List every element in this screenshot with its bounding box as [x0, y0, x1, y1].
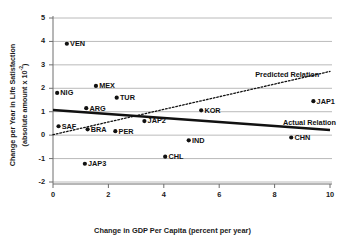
data-point-label-ven: VEN [70, 39, 85, 48]
y-tick-label-2: 2 [31, 83, 45, 92]
data-point-label-arg: ARG [89, 104, 105, 113]
data-point-label-kor: KOR [204, 106, 220, 115]
x-tick-marks-group [53, 184, 330, 188]
data-point-arg [84, 106, 88, 110]
data-point-ind [187, 138, 191, 142]
y-tick-label--2: -2 [31, 177, 45, 186]
data-point-chl [163, 155, 167, 159]
data-point-label-tur: TUR [120, 93, 135, 102]
data-point-per [113, 129, 117, 133]
data-point-mex [94, 84, 98, 88]
data-point-jap3 [83, 162, 87, 166]
x-tick-label-4: 4 [156, 190, 172, 199]
x-tick-label-10: 10 [322, 190, 338, 199]
x-tick-label-2: 2 [100, 190, 116, 199]
scatter-chart-figure: Change per Year in Life Satisfaction (ab… [0, 0, 345, 242]
data-point-label-per: PER [119, 127, 134, 136]
y-tick-label-4: 4 [31, 36, 45, 45]
data-point-label-bra: BRA [91, 125, 107, 134]
y-tick-label--1: -1 [31, 154, 45, 163]
data-point-ven [65, 42, 69, 46]
data-point-label-ind: IND [192, 136, 205, 145]
data-point-label-jap2: JAP2 [148, 116, 166, 125]
data-point-label-chl: CHL [168, 152, 183, 161]
data-point-label-jap3: JAP3 [88, 159, 106, 168]
annotation-actual-relation: Actual Relation [283, 118, 336, 127]
y-tick-label-0: 0 [31, 130, 45, 139]
data-point-nig [55, 91, 59, 95]
data-point-chn [289, 135, 293, 139]
data-point-label-jap1: JAP1 [317, 97, 335, 106]
annotation-predicted-relation: Predicted Relation [255, 70, 319, 79]
data-point-label-nig: NIG [60, 88, 73, 97]
data-point-jap2 [142, 119, 146, 123]
gridlines-group [53, 18, 332, 182]
y-tick-label-1: 1 [31, 107, 45, 116]
data-point-saf [56, 124, 60, 128]
data-point-label-chn: CHN [294, 133, 310, 142]
data-point-label-mex: MEX [99, 81, 115, 90]
data-point-kor [199, 108, 203, 112]
data-point-jap1 [311, 99, 315, 103]
data-point-label-saf: SAF [62, 122, 77, 131]
y-tick-marks-group [49, 18, 53, 182]
x-tick-label-6: 6 [211, 190, 227, 199]
y-tick-label-5: 5 [31, 13, 45, 22]
data-point-bra [86, 127, 90, 131]
y-tick-label-3: 3 [31, 60, 45, 69]
x-tick-label-0: 0 [45, 190, 61, 199]
data-point-tur [115, 96, 119, 100]
x-tick-label-8: 8 [267, 190, 283, 199]
